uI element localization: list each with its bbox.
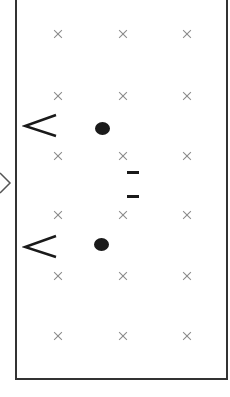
cross-mark-icon	[182, 271, 192, 281]
chevron-left-icon	[22, 113, 58, 139]
cross-mark-icon	[182, 29, 192, 39]
dash-marker	[127, 195, 139, 198]
cross-mark-icon	[182, 151, 192, 161]
cross-mark-icon	[118, 91, 128, 101]
cross-mark-icon	[53, 331, 63, 341]
cross-mark-icon	[53, 91, 63, 101]
dash-marker	[127, 171, 139, 174]
cross-mark-icon	[53, 29, 63, 39]
chevron-left-icon	[22, 234, 58, 260]
cross-mark-icon	[118, 210, 128, 220]
cross-mark-icon	[53, 271, 63, 281]
cross-mark-icon	[118, 271, 128, 281]
cross-mark-icon	[118, 331, 128, 341]
cross-mark-icon	[118, 29, 128, 39]
cross-mark-icon	[118, 151, 128, 161]
dot-marker	[95, 122, 110, 135]
cross-mark-icon	[53, 210, 63, 220]
diagram-frame	[15, 0, 228, 380]
dot-marker	[94, 238, 109, 251]
cross-mark-icon	[53, 151, 63, 161]
cross-mark-icon	[182, 210, 192, 220]
cross-mark-icon	[182, 331, 192, 341]
chevron-right-icon	[0, 170, 12, 196]
cross-mark-icon	[182, 91, 192, 101]
